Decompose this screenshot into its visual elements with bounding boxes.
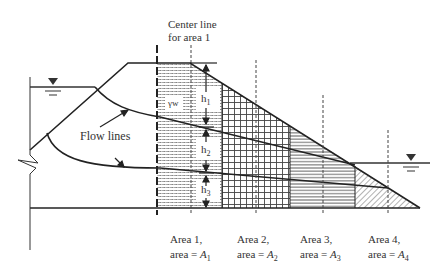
area-3-label: Area 3, area = A3 bbox=[300, 232, 341, 266]
area-2-label: Area 2, area = A2 bbox=[237, 232, 278, 266]
area-4-formula: area = A4 bbox=[368, 247, 409, 266]
flow-lines-label: Flow lines bbox=[80, 130, 130, 143]
area-1-title: Area 1, bbox=[170, 232, 211, 247]
area-1-formula: area = A1 bbox=[170, 247, 211, 266]
area-1-label: Area 1, area = A1 bbox=[170, 232, 211, 266]
area-4-symbol: A bbox=[398, 248, 405, 260]
area-1-prefix: area = bbox=[170, 248, 200, 260]
area-3-formula: area = A3 bbox=[300, 247, 341, 266]
area-4-label: Area 4, area = A4 bbox=[368, 232, 409, 266]
area-2-sub: 2 bbox=[274, 254, 278, 263]
area-2-symbol: A bbox=[267, 248, 274, 260]
center-line-label: Center line for area 1 bbox=[168, 18, 217, 44]
area-4-title: Area 4, bbox=[368, 232, 409, 247]
h3-label: h3 bbox=[201, 183, 211, 200]
area-4-sub: 4 bbox=[405, 254, 409, 263]
h1-label: h1 bbox=[201, 92, 211, 109]
area-2-formula: area = A2 bbox=[237, 247, 278, 266]
h2-label: h2 bbox=[201, 143, 211, 160]
area-3-sub: 3 bbox=[337, 254, 341, 263]
center-line-label-line1: Center line bbox=[168, 18, 217, 31]
area-1-sub: 1 bbox=[207, 254, 211, 263]
area-2-title: Area 2, bbox=[237, 232, 278, 247]
area-3-title: Area 3, bbox=[300, 232, 341, 247]
area-1-symbol: A bbox=[200, 248, 207, 260]
left-boundary bbox=[18, 77, 38, 250]
area-4-prefix: area = bbox=[368, 248, 398, 260]
area-3-symbol: A bbox=[330, 248, 337, 260]
gamma-w-label: γw bbox=[168, 97, 178, 110]
center-line-label-line2: for area 1 bbox=[168, 31, 217, 44]
area-2-prefix: area = bbox=[237, 248, 267, 260]
area-3-prefix: area = bbox=[300, 248, 330, 260]
